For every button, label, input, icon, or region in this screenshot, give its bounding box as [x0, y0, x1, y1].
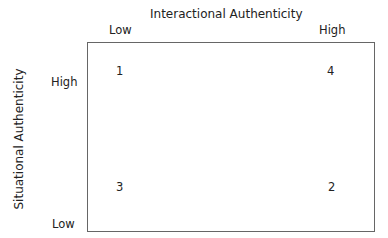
y-axis-high-label: High: [51, 77, 77, 89]
quadrant-label-4: 4: [327, 66, 334, 78]
y-axis-low-label: Low: [52, 219, 75, 231]
quadrant-label-3: 3: [116, 182, 123, 194]
x-axis-title: Interactional Authenticity: [150, 8, 303, 20]
x-axis-high-label: High: [319, 25, 345, 37]
x-axis-low-label: Low: [109, 25, 132, 37]
quadrant-label-2: 2: [328, 182, 335, 194]
y-axis-title: Situational Authenticity: [13, 69, 25, 210]
quadrant-label-1: 1: [116, 66, 123, 78]
